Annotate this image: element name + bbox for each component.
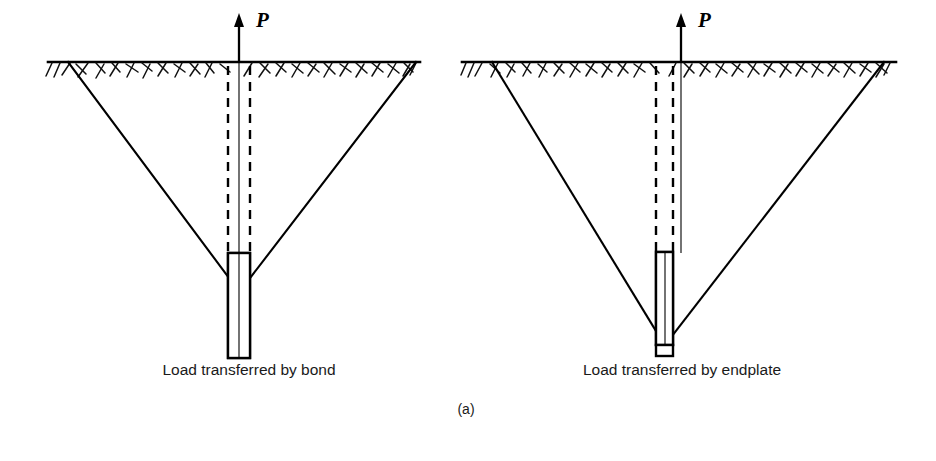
load-arrow-right — [676, 13, 686, 62]
panel-left: P Load transferred by bond — [46, 8, 420, 378]
load-label-right: P — [697, 8, 711, 32]
caption-right: Load transferred by endplate — [583, 361, 781, 378]
failure-cone-right — [492, 62, 884, 336]
ground-surface-left — [46, 62, 420, 78]
endplate-right — [656, 345, 673, 356]
caption-left: Load transferred by bond — [162, 361, 335, 378]
ground-surface-right — [461, 62, 896, 77]
panel-letter: (a) — [457, 401, 474, 417]
figure-root: P Load transferred by bond — [0, 0, 936, 461]
ground-hatching-right — [461, 63, 890, 77]
panel-right: P Load transferred by endplate — [461, 8, 896, 378]
load-arrow-left — [234, 13, 244, 62]
bond-zone-right — [656, 252, 673, 345]
pile-load-transfer-diagram: P Load transferred by bond — [0, 0, 936, 461]
pile-shaft-dashed-right — [656, 62, 681, 253]
load-arrowhead-right — [676, 13, 686, 27]
ground-hatching-left — [46, 63, 416, 78]
load-arrowhead-left — [234, 13, 244, 27]
failure-cone-left — [68, 62, 416, 282]
load-label-left: P — [255, 8, 269, 32]
pile-shaft-dashed-left — [228, 62, 250, 254]
bond-zone-left — [228, 253, 250, 358]
